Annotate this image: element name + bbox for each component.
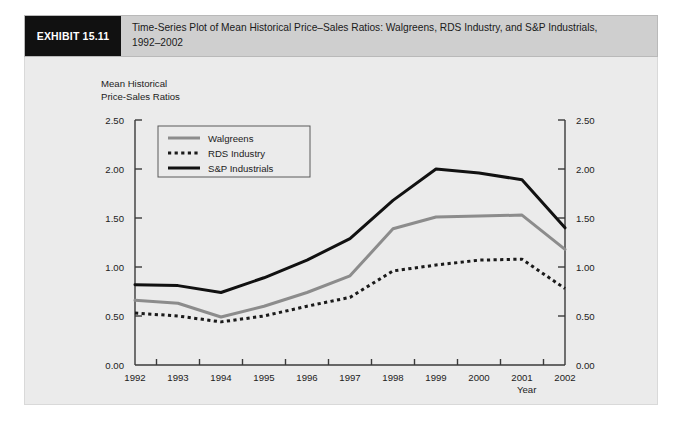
x-tick-label: 2001	[511, 372, 532, 383]
y-tick-label-left: 2.50	[105, 115, 124, 126]
exhibit-title-line-2: 1992–2002	[132, 36, 647, 51]
x-tick-label: 1994	[210, 372, 232, 383]
x-tick-label: 1998	[382, 372, 403, 383]
legend-label-s-p-industrials: S&P Industrials	[208, 163, 274, 174]
y-tick-label-right: 2.00	[576, 164, 595, 175]
exhibit-title-line-1: Time-Series Plot of Mean Historical Pric…	[132, 21, 647, 36]
x-tick-label: 1993	[167, 372, 188, 383]
y-tick-label-right: 0.00	[576, 360, 595, 371]
y-tick-label-left: 1.50	[105, 213, 124, 224]
y-tick-label-right: 1.50	[576, 213, 595, 224]
x-tick-label: 1997	[339, 372, 360, 383]
y-tick-label-left: 2.00	[105, 164, 124, 175]
series-line-walgreens	[135, 215, 565, 317]
data-series-group	[135, 169, 565, 322]
legend-label-walgreens: Walgreens	[208, 133, 254, 144]
y-axis-left-ticks: 0.000.501.001.502.002.50	[105, 115, 142, 371]
y-tick-label-left: 1.00	[105, 262, 124, 273]
legend-label-rds-industry: RDS Industry	[208, 148, 265, 159]
x-tick-label: 2002	[554, 372, 575, 383]
figure-panel: Mean Historical Price-Sales Ratios Year …	[24, 57, 658, 405]
y-axis-right-ticks: 0.000.501.001.502.002.50	[558, 115, 595, 371]
x-tick-label: 1992	[124, 372, 145, 383]
y-tick-label-right: 1.00	[576, 262, 595, 273]
exhibit-header: EXHIBIT 15.11 Time-Series Plot of Mean H…	[24, 15, 658, 57]
x-tick-label: 1999	[425, 372, 446, 383]
y-tick-label-left: 0.00	[105, 360, 124, 371]
y-tick-label-right: 2.50	[576, 115, 595, 126]
x-tick-label: 2000	[468, 372, 489, 383]
exhibit-number-tag: EXHIBIT 15.11	[25, 16, 121, 56]
line-chart-plot: 0.000.501.001.502.002.50 0.000.501.001.5…	[25, 57, 659, 405]
exhibit-page: EXHIBIT 15.11 Time-Series Plot of Mean H…	[0, 0, 679, 424]
y-tick-label-right: 0.50	[576, 311, 595, 322]
chart-legend: WalgreensRDS IndustryS&P Industrials	[158, 126, 310, 177]
x-tick-label: 1996	[296, 372, 317, 383]
exhibit-title: Time-Series Plot of Mean Historical Pric…	[121, 16, 657, 56]
x-axis-ticks: 1992199319941995199619971998199920002001…	[124, 359, 575, 383]
y-tick-label-left: 0.50	[105, 311, 124, 322]
x-tick-label: 1995	[253, 372, 274, 383]
